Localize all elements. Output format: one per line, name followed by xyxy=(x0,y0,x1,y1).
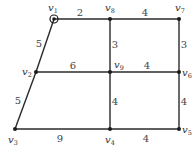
edges-layer xyxy=(15,19,179,129)
vertex-v2 xyxy=(34,70,38,74)
vertex-v9 xyxy=(108,70,112,74)
edge-weights-layer: 245643359444 xyxy=(15,7,187,144)
vertex-label-v9: v9 xyxy=(114,59,124,72)
vertex-v3 xyxy=(13,127,17,131)
edge-weight-label: 4 xyxy=(112,96,118,107)
vertex-label-v3: v3 xyxy=(8,134,18,147)
vertex-label-v5: v5 xyxy=(182,124,192,137)
edge-weight-label: 4 xyxy=(144,60,150,71)
edge-weight-label: 4 xyxy=(143,133,149,144)
vertex-label-v2: v2 xyxy=(22,66,32,79)
vertex-label-v1: v1 xyxy=(48,2,58,15)
edge-weight-label: 4 xyxy=(181,96,187,107)
weighted-graph-diagram: 245643359444 v1v2v3v4v5v6v7v8v9 xyxy=(0,0,195,156)
edge-weight-label: 5 xyxy=(15,95,21,106)
vertex-label-v4: v4 xyxy=(105,134,115,147)
vertex-v1 xyxy=(52,17,56,21)
edge-weight-label: 2 xyxy=(77,7,83,18)
vertex-v8 xyxy=(108,17,112,21)
vertex-label-v8: v8 xyxy=(105,2,115,15)
vertex-v6 xyxy=(177,70,181,74)
vertex-v7 xyxy=(177,17,181,21)
vertex-v4 xyxy=(108,127,112,131)
vertex-label-v6: v6 xyxy=(182,67,192,80)
edge-weight-label: 3 xyxy=(181,39,187,50)
edge-weight-label: 4 xyxy=(142,7,148,18)
vertex-label-v7: v7 xyxy=(175,2,185,15)
edge-weight-label: 5 xyxy=(36,38,42,49)
edge-weight-label: 3 xyxy=(112,39,118,50)
vertex-v5 xyxy=(177,127,181,131)
edge-weight-label: 6 xyxy=(70,60,76,71)
vertices-layer xyxy=(13,15,181,131)
edge-weight-label: 9 xyxy=(57,133,63,144)
